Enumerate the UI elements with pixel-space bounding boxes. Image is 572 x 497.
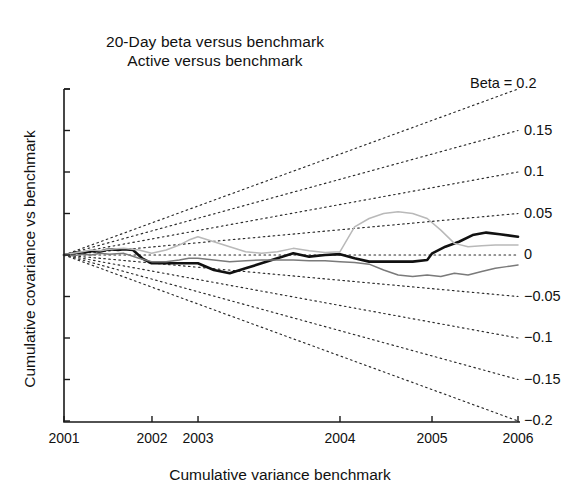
x-tick-label-2001: 2001 (48, 430, 79, 446)
beta-ray-neg0p1 (64, 255, 518, 338)
beta-ray-neg0p05 (64, 255, 518, 297)
beta-label-0p15: 0.15 (524, 122, 552, 138)
x-tick-label-2004: 2004 (324, 430, 355, 446)
beta-label-neg0p05: −0.05 (524, 288, 561, 304)
x-tick-label-2005: 2005 (416, 430, 447, 446)
beta-ray-neg0p2 (64, 255, 518, 421)
x-tick-label-2002: 2002 (136, 430, 167, 446)
beta-label-neg0p1: −0.1 (524, 329, 553, 345)
beta-label-neg0p2: −0.2 (524, 412, 553, 428)
series-line-active-light-gray (64, 212, 518, 255)
beta-ray-0p2 (64, 89, 518, 255)
data-series-group (64, 212, 518, 277)
beta-label-0p2: Beta = 0.2 (470, 75, 537, 91)
y-axis-title: Cumulative covariance vs benchmark (21, 89, 39, 429)
beta-label-0: 0 (524, 246, 532, 262)
x-tick-label-2006: 2006 (502, 430, 533, 446)
beta-ray-0p15 (64, 131, 518, 256)
x-axis-title: Cumulative variance benchmark (0, 466, 560, 484)
x-tick-label-2003: 2003 (182, 430, 213, 446)
beta-label-neg0p15: −0.15 (524, 371, 561, 387)
beta-label-0p05: 0.05 (524, 205, 552, 221)
chart-figure: 20-Day beta versus benchmark Active vers… (0, 0, 572, 497)
beta-ray-0p1 (64, 172, 518, 255)
beta-label-0p1: 0.1 (524, 163, 544, 179)
